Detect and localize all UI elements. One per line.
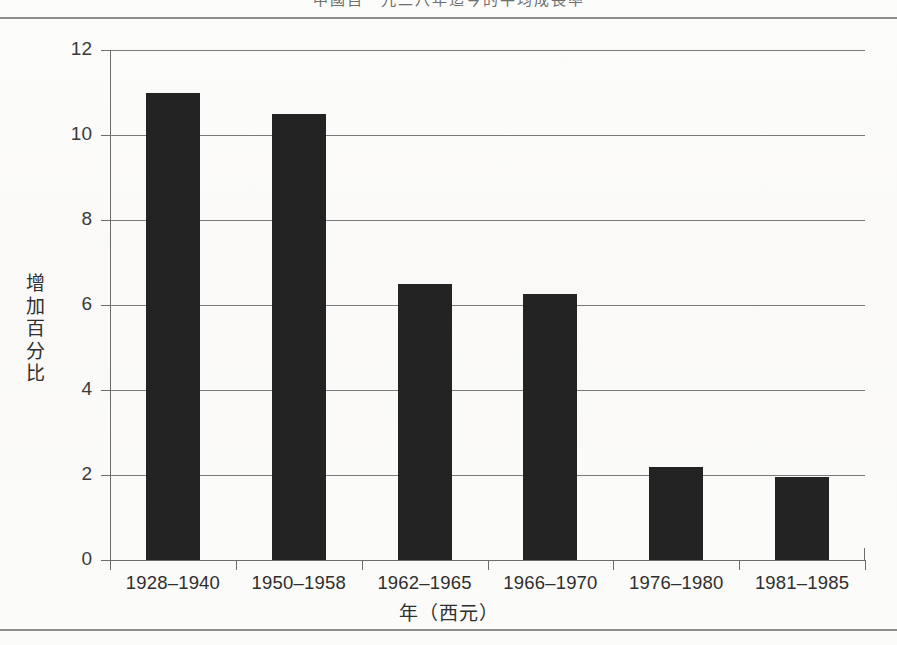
bar (146, 93, 200, 561)
y-axis-title: 增加百分比 (22, 273, 48, 386)
y-gridline (110, 50, 865, 51)
x-axis-title: 年（西元） (0, 598, 897, 625)
bar (272, 114, 326, 560)
bar (398, 284, 452, 560)
y-axis-tick-mark (101, 220, 110, 221)
y-axis-title-char: 百 (22, 318, 48, 341)
scanned-page: 中國自一九二八年迄今的平均成長率 增加百分比 年（西元） 02468101219… (0, 0, 897, 645)
y-axis-tick-label: 6 (52, 293, 92, 315)
y-axis-title-char: 加 (22, 296, 48, 319)
y-axis-tick-label: 4 (52, 378, 92, 400)
bar (775, 477, 829, 560)
y-axis-tick-label: 8 (52, 208, 92, 230)
y-gridline (110, 475, 865, 476)
y-axis-tick-mark (101, 560, 110, 561)
y-axis-tick-label: 12 (52, 38, 92, 60)
y-gridline (110, 390, 865, 391)
y-axis-tick-label: 10 (52, 123, 92, 145)
y-axis-title-char: 分 (22, 341, 48, 364)
y-axis-tick-mark (101, 135, 110, 136)
y-gridline (110, 220, 865, 221)
x-axis-tick-mark (739, 560, 740, 570)
bar (649, 467, 703, 561)
x-axis-tick-label: 1981–1985 (722, 572, 882, 594)
y-gridline (110, 135, 865, 136)
y-axis-tick-label: 0 (52, 548, 92, 570)
y-axis-tick-mark (101, 50, 110, 51)
x-axis-tick-mark (613, 560, 614, 570)
bar (523, 294, 577, 560)
y-axis-title-char: 比 (22, 363, 48, 386)
x-axis-tick-mark (362, 560, 363, 570)
x-axis-tick-mark (236, 560, 237, 570)
y-axis-title-char: 增 (22, 273, 48, 296)
y-axis-tick-label: 2 (52, 463, 92, 485)
y-axis-tick-mark (101, 390, 110, 391)
plot-area (110, 50, 865, 560)
y-axis-tick-mark (101, 475, 110, 476)
bar-chart: 增加百分比 年（西元） 0246810121928–19401950–19581… (0, 0, 897, 645)
y-axis-line (110, 50, 111, 561)
y-gridline (110, 305, 865, 306)
x-axis-tick-mark (110, 560, 111, 570)
x-axis-tick-mark (488, 560, 489, 570)
x-axis-tick-mark (865, 560, 866, 570)
y-axis-tick-mark (101, 305, 110, 306)
